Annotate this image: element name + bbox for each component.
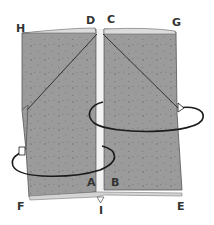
arrowhead-icon <box>19 147 25 155</box>
triangle-marker-icon <box>97 197 104 203</box>
label-B: B <box>111 177 119 188</box>
label-H: H <box>16 23 25 34</box>
left-panel <box>22 28 97 197</box>
label-D: D <box>86 15 95 26</box>
arrowhead-icon <box>178 103 184 112</box>
label-F: F <box>17 201 25 212</box>
label-E: E <box>177 201 185 212</box>
label-A: A <box>87 177 96 188</box>
label-I: I <box>99 205 103 216</box>
label-C: C <box>107 14 115 25</box>
right-panel <box>103 28 182 190</box>
folding-diagram <box>0 0 214 225</box>
label-G: G <box>172 17 181 28</box>
